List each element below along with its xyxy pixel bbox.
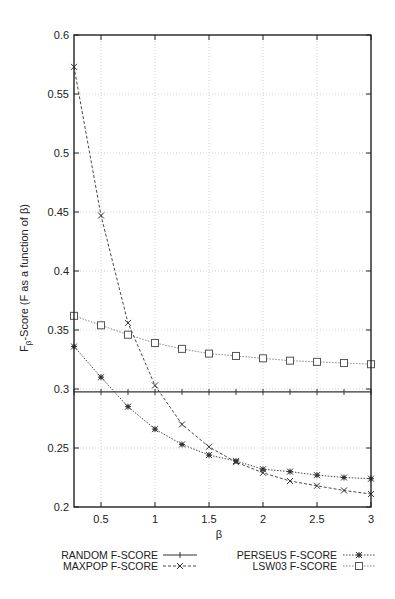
- svg-text:0.3: 0.3: [54, 383, 69, 395]
- svg-text:0.35: 0.35: [48, 324, 69, 336]
- y-axis-label: Fβ-Score (F as a function of β): [18, 204, 33, 352]
- svg-text:2.5: 2.5: [309, 513, 324, 525]
- legend-lsw03-symbol: [343, 563, 375, 570]
- legend: RANDOM F-SCORE MAXPOP F-SCORE PERSEUS F-…: [61, 549, 375, 572]
- legend-maxpop-label: MAXPOP F-SCORE: [63, 560, 158, 572]
- x-axis-label: β: [216, 528, 222, 540]
- svg-text:3: 3: [368, 513, 374, 525]
- svg-text:0.45: 0.45: [48, 206, 69, 218]
- svg-text:0.25: 0.25: [48, 442, 69, 454]
- svg-text:2: 2: [260, 513, 266, 525]
- series-random: [74, 389, 371, 395]
- chart: 0.511.522.530.20.250.30.350.40.450.50.55…: [0, 0, 395, 599]
- svg-text:0.5: 0.5: [54, 147, 69, 159]
- svg-text:0.2: 0.2: [54, 501, 69, 513]
- svg-text:0.4: 0.4: [54, 265, 69, 277]
- svg-text:1: 1: [152, 513, 158, 525]
- legend-perseus-symbol: [343, 552, 375, 558]
- svg-text:0.5: 0.5: [93, 513, 108, 525]
- series-lsw03: [71, 312, 375, 367]
- series-maxpop: [71, 64, 374, 497]
- y-axis-label-rest: -Score (F as a function of β): [18, 204, 30, 341]
- axis-ticks: 0.511.522.530.20.250.30.350.40.450.50.55…: [48, 29, 374, 525]
- svg-text:0.6: 0.6: [54, 29, 69, 41]
- svg-text:0.55: 0.55: [48, 88, 69, 100]
- plot-series: [71, 64, 375, 497]
- grid-lines: [74, 35, 371, 507]
- legend-maxpop-symbol: [163, 563, 197, 569]
- svg-text:1.5: 1.5: [201, 513, 216, 525]
- legend-lsw03-label: LSW03 F-SCORE: [252, 560, 337, 572]
- legend-random-symbol: [163, 552, 197, 558]
- svg-text:Fβ-Score (F as a function of β: Fβ-Score (F as a function of β): [18, 204, 33, 352]
- series-perseus: [71, 344, 374, 482]
